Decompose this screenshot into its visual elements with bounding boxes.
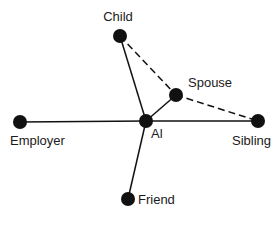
node-label-friend: Friend — [138, 192, 175, 207]
node-label-employer: Employer — [10, 133, 66, 148]
node-label-al: Al — [151, 126, 163, 141]
edge-al-employer — [20, 121, 146, 122]
edge-al-child — [120, 36, 146, 121]
node-employer — [13, 115, 27, 129]
node-friend — [121, 192, 135, 206]
node-spouse — [169, 88, 183, 102]
node-child — [113, 29, 127, 43]
node-sibling — [251, 114, 265, 128]
node-label-spouse: Spouse — [188, 75, 232, 90]
node-label-child: Child — [103, 9, 133, 24]
edges-layer — [20, 36, 258, 199]
node-label-sibling: Sibling — [232, 133, 271, 148]
edge-al-friend — [128, 121, 146, 199]
network-diagram: ChildSpouseEmployerAlSiblingFriend — [0, 0, 277, 230]
labels-layer: ChildSpouseEmployerAlSiblingFriend — [10, 9, 271, 207]
edge-spouse-sibling — [176, 95, 258, 121]
